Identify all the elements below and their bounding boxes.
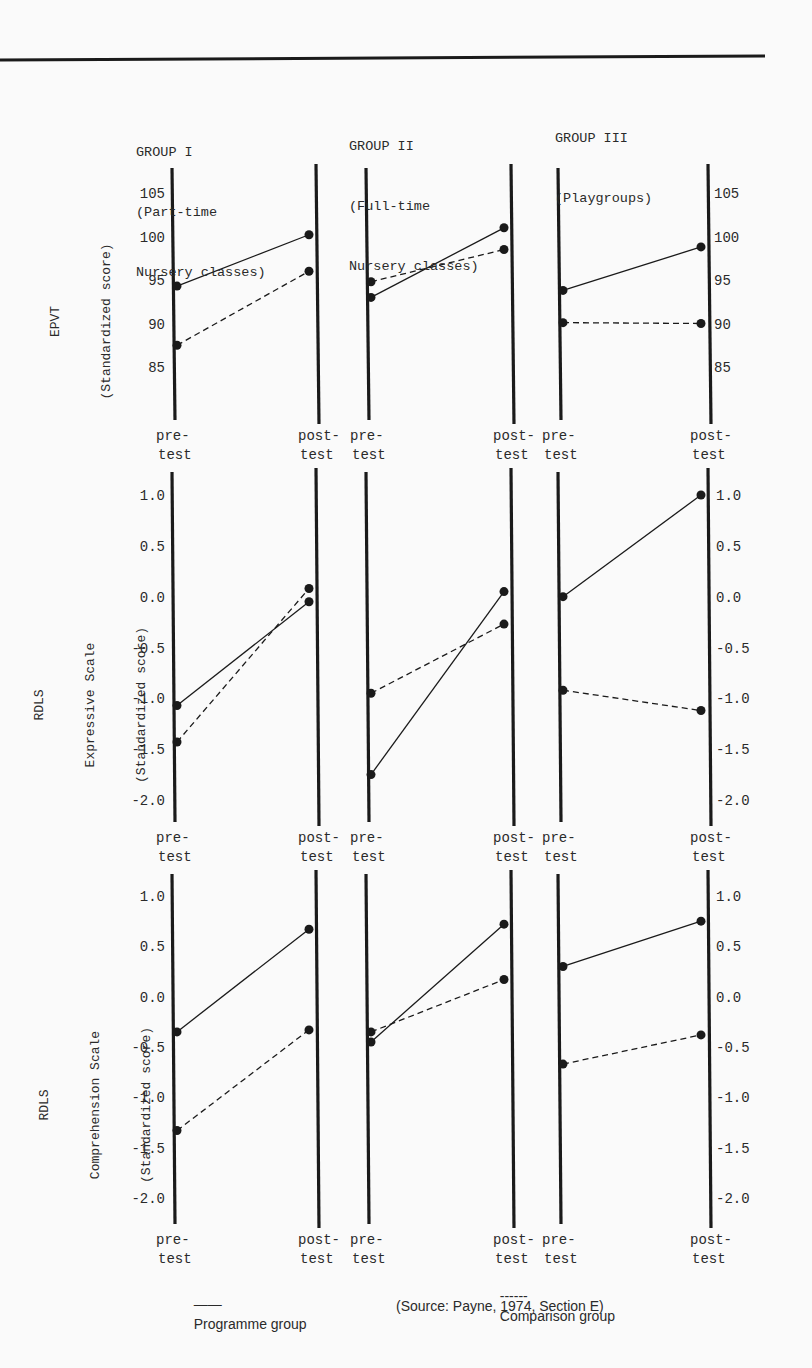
- panel-3-group-2-pre-label-2: test: [352, 1251, 386, 1267]
- group-3-header: GROUP III (Playgroups): [555, 89, 652, 229]
- panel-1-left-tick: 85: [148, 360, 165, 376]
- panel-2-left-tick: 0.5: [140, 539, 165, 555]
- panel-2-group-2-pre-label-2: test: [352, 849, 386, 865]
- panel-2-group-3-pre-axis: [558, 472, 561, 822]
- group-3-title: GROUP III: [555, 129, 652, 149]
- panel-3-group-2-comparison-pre-point: [367, 1027, 376, 1036]
- panel-2-right-tick: 0.5: [716, 539, 741, 555]
- panel-2-group-1-pre-label: pre-: [156, 830, 190, 846]
- group-2-title: GROUP II: [349, 137, 479, 157]
- panel-1-group-2-post-axis: [511, 164, 514, 424]
- panel-3-group-2-programme-pre-point: [367, 1037, 376, 1046]
- panel-3-group-3-programme-post-point: [697, 917, 706, 926]
- panel-2-right-tick: -2.0: [716, 793, 750, 809]
- plot-layer: pre-testpost-testpre-testpost-testpre-te…: [131, 164, 749, 1267]
- panel-2-ylabel-line-1: RDLS: [31, 605, 48, 805]
- panel-3-right-tick: -2.0: [716, 1191, 750, 1207]
- panel-1-group-3-programme-line: [563, 247, 701, 291]
- panel-2-group-3-programme-line: [563, 495, 701, 597]
- group-3-subtitle-1: (Playgroups): [555, 189, 652, 209]
- panel-2-group-2-pre-axis: [366, 472, 369, 822]
- panel-2-right-tick: -1.0: [716, 691, 750, 707]
- panel-1-ylabel-line-1: EPVT: [47, 222, 64, 422]
- panel-2-group-3-post-label: post-: [690, 830, 732, 846]
- panel-1-group-3-comparison-post-point: [697, 319, 706, 328]
- panel-3-right-tick: 1.0: [716, 889, 741, 905]
- panel-3-group-2-post-axis: [511, 870, 514, 1228]
- panel-2-group-1-programme-post-point: [305, 597, 314, 606]
- panel-3-group-2-comparison-line: [371, 980, 504, 1032]
- panel-2-ylabel-line-2: Expressive Scale: [82, 605, 99, 805]
- panel-3-group-1-post-label-2: test: [300, 1251, 334, 1267]
- group-2-subtitle-1: (Full-time: [349, 197, 479, 217]
- panel-1-right-tick: 85: [714, 360, 731, 376]
- panel-1-group-3-pre-label: pre-: [542, 428, 576, 444]
- panel-2-group-3-post-axis: [708, 468, 711, 826]
- panel-3-group-3-programme-pre-point: [559, 962, 568, 971]
- panel-3-group-1-programme-pre-point: [173, 1027, 182, 1036]
- panel-1-group-3-post-label: post-: [690, 428, 732, 444]
- panel-1-group-3-comparison-pre-point: [559, 318, 568, 327]
- group-1-header: GROUP I (Part-time Nursery classes): [136, 103, 266, 303]
- legend-programme-label: Programme group: [194, 1316, 307, 1332]
- panel-1-group-2-post-label-2: test: [495, 447, 529, 463]
- panel-2-right-tick: -0.5: [716, 641, 750, 657]
- panel-3-group-2-post-label-2: test: [495, 1251, 529, 1267]
- panel-3-group-1-post-label: post-: [298, 1232, 340, 1248]
- panel-3-group-1-post-axis: [316, 870, 319, 1228]
- group-1-subtitle-1: (Part-time: [136, 203, 266, 223]
- panel-1-group-3-post-axis: [708, 164, 711, 424]
- panel-1-group-1-post-label-2: test: [300, 447, 334, 463]
- panel-2-group-3-programme-pre-point: [559, 592, 568, 601]
- panel-2-group-2-programme-pre-point: [367, 770, 376, 779]
- panel-3-right-tick: -1.0: [716, 1090, 750, 1106]
- panel-1-group-3-post-label-2: test: [692, 447, 726, 463]
- panel-2-right-tick: 0.0: [716, 590, 741, 606]
- panel-3-right-tick: 0.0: [716, 990, 741, 1006]
- group-2-subtitle-2: Nursery classes): [349, 257, 479, 277]
- panel-2-group-3-pre-label: pre-: [542, 830, 576, 846]
- panel-2-group-3-pre-label-2: test: [544, 849, 578, 865]
- panel-3-group-3-programme-line: [563, 921, 701, 966]
- panel-1-group-1-pre-label-2: test: [158, 447, 192, 463]
- panel-2-group-1-pre-label-2: test: [158, 849, 192, 865]
- panel-3-group-3-comparison-post-point: [697, 1030, 706, 1039]
- panel-3-left-tick: 0.5: [140, 939, 165, 955]
- panel-2-ylabel-line-3: (Standardized score): [133, 605, 150, 805]
- panel-2-group-3-post-label-2: test: [692, 849, 726, 865]
- panel-2-group-1-programme-line: [177, 602, 309, 706]
- panel-2-group-1-post-axis: [316, 468, 319, 826]
- panel-2-group-2-post-label: post-: [493, 830, 535, 846]
- panel-3-group-2-pre-label: pre-: [350, 1232, 384, 1248]
- panel-1-right-tick: 100: [714, 230, 739, 246]
- panel-1-group-1-post-axis: [316, 164, 319, 424]
- panel-2-left-tick: 1.0: [140, 488, 165, 504]
- group-1-title: GROUP I: [136, 143, 266, 163]
- panel-2-group-1-comparison-pre-point: [173, 738, 182, 747]
- panel-3-group-3-pre-label: pre-: [542, 1232, 576, 1248]
- panel-2-group-2-post-axis: [511, 468, 514, 826]
- panel-3-ylabel: RDLS Comprehension Scale (Standardized s…: [2, 1000, 172, 1210]
- panel-1-group-1-pre-label: pre-: [156, 428, 190, 444]
- panel-1-group-1-programme-post-point: [305, 230, 314, 239]
- panel-2-group-1-programme-pre-point: [173, 701, 182, 710]
- panel-3-group-3-post-label: post-: [690, 1232, 732, 1248]
- panel-3-right-tick: -1.5: [716, 1141, 750, 1157]
- group-2-header: GROUP II (Full-time Nursery classes): [349, 97, 479, 297]
- panel-3-group-3-post-axis: [708, 870, 711, 1228]
- panel-2-right-tick: 1.0: [716, 488, 741, 504]
- panel-3-right-tick: 0.5: [716, 939, 741, 955]
- panel-3-group-1-comparison-post-point: [305, 1025, 314, 1034]
- panel-1-group-1-comparison-pre-point: [173, 341, 182, 350]
- panel-3-group-3-pre-label-2: test: [544, 1251, 578, 1267]
- panel-2-group-1-comparison-line: [177, 589, 309, 743]
- panel-2-group-2-post-label-2: test: [495, 849, 529, 865]
- panel-2-left-tick: 0.0: [140, 590, 165, 606]
- panel-3-group-2-programme-post-point: [500, 920, 509, 929]
- panel-3-ylabel-line-1: RDLS: [36, 1000, 53, 1210]
- panel-3-left-tick: 1.0: [140, 889, 165, 905]
- panel-1-right-tick: 105: [714, 186, 739, 202]
- legend-programme: —— Programme group: [186, 1274, 307, 1334]
- panel-3-group-2-post-label: post-: [493, 1232, 535, 1248]
- panel-3-right-tick: -0.5: [716, 1040, 750, 1056]
